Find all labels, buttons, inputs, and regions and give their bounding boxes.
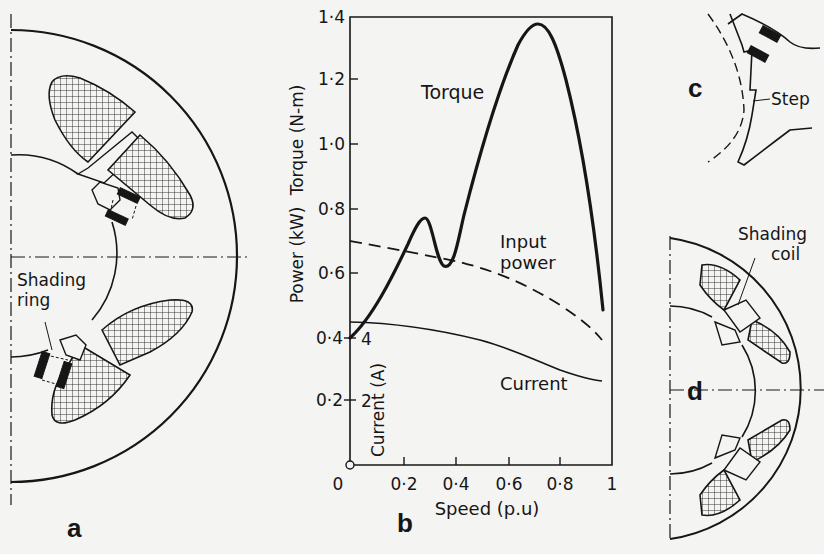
step-label: Step — [771, 89, 810, 109]
y-tick-0.2: 0·2 — [316, 390, 343, 410]
shading-ring-label-line1: Shading — [17, 270, 86, 290]
y-tick-1.0: 1·0 — [318, 134, 345, 154]
x-axis-ticks — [404, 457, 560, 465]
x-tick-0.6: 0·6 — [495, 474, 522, 494]
y-tick-0.6: 0·6 — [318, 263, 345, 283]
winding-d-lower-1 — [748, 420, 790, 462]
step-leader — [753, 99, 770, 101]
current-tick-4: 4 — [361, 329, 372, 349]
winding-d-upper-2 — [748, 320, 790, 363]
y-tick-1.2: 1·2 — [318, 69, 345, 89]
input-power-curve — [350, 241, 602, 340]
torque-curve — [350, 24, 603, 338]
shading-coil-label-line1: Shading — [738, 224, 807, 244]
torque-curve-label: Torque — [420, 81, 484, 103]
y-tick-1.4: 1·4 — [318, 7, 345, 27]
winding-lower-1 — [102, 300, 192, 365]
x-axis-label: Speed (p.u) — [435, 498, 540, 519]
shading-ring-label-line2: ring — [17, 290, 50, 310]
panel-label-d: d — [687, 376, 703, 406]
chart-series — [350, 24, 603, 381]
current-curve-label: Current — [500, 373, 568, 394]
y-tick-0.4: 0·4 — [316, 328, 343, 348]
outer-yoke-arc — [11, 30, 237, 482]
panel-label-b: b — [397, 508, 413, 538]
x-tick-0.8: 0·8 — [546, 474, 573, 494]
y-tick-0.8: 0·8 — [318, 199, 345, 219]
panel-a-stator-diagram — [11, 14, 250, 505]
figure-canvas: Shading ring a 1·4 1·2 1·0 0·8 0·6 0·4 — [0, 0, 824, 554]
y-tick-labels: 1·4 1·2 1·0 0·8 0·6 0·4 0·2 — [316, 7, 345, 410]
panel-label-c: c — [688, 73, 702, 103]
winding-d-lower-2 — [700, 470, 740, 515]
x-tick-0: 0 — [333, 474, 344, 494]
y-axis-label-power: Power (kW) — [287, 207, 307, 304]
input-power-label-line2: power — [500, 252, 556, 273]
x-tick-1: 1 — [607, 474, 618, 494]
x-tick-labels: 0 0·2 0·4 0·6 0·8 1 — [333, 474, 618, 494]
shading-coil-label-line2: coil — [771, 244, 800, 264]
x-tick-0.2: 0·2 — [390, 474, 417, 494]
winding-d-upper-1 — [700, 265, 740, 310]
shading-ring-leader — [45, 322, 52, 350]
panel-label-a: a — [67, 513, 82, 543]
origin-marker — [346, 461, 354, 469]
y-axis-label-torque: Torque (N-m) — [287, 85, 307, 197]
shading-coil-leader — [738, 258, 755, 305]
y-axis-ticks — [344, 79, 358, 400]
input-power-label-line1: Input — [500, 231, 547, 252]
x-tick-0.4: 0·4 — [442, 474, 469, 494]
y-axis-label-current: Current (A) — [368, 363, 388, 457]
